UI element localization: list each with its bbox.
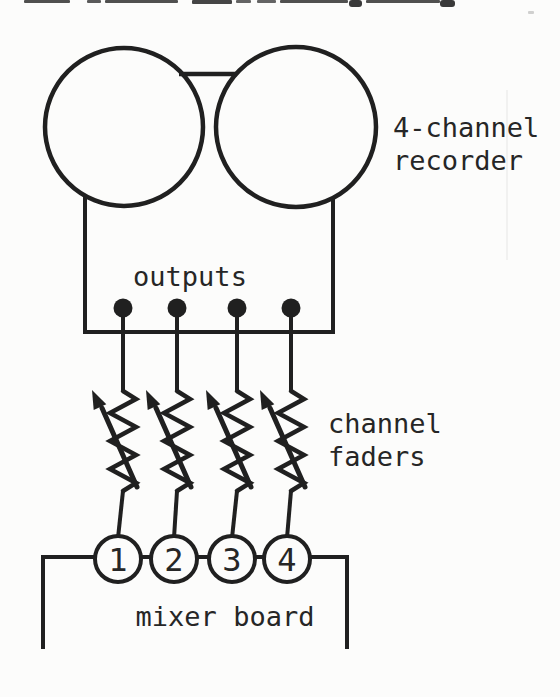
mixer-outline-right [310,557,347,649]
faders-label: channel faders [328,408,442,472]
outputs-label: outputs [133,261,247,292]
fader-3-lead [232,491,237,538]
channel-number-4: 4 [277,541,296,579]
channel-number-2: 2 [164,541,183,579]
recorder-unit: outputs [45,47,376,332]
fader-1-lead [118,491,123,538]
recorder-label-line1: 4-channel [393,112,539,143]
fader-2-lead [174,491,177,538]
signal-flow-diagram: outputs 4-channel recorder [0,0,560,697]
fader-3 [206,390,251,538]
scan-speck [528,11,534,14]
mixer-outline-left [43,557,95,649]
output-wires [123,308,291,391]
faders-label-line2: faders [328,441,426,472]
mixer-board-label: mixer board [136,601,315,632]
fader-2 [146,390,191,538]
channel-number-1: 1 [108,541,127,579]
recorder-label-line2: recorder [393,145,523,176]
fader-4 [260,390,305,538]
scanned-figure-page: outputs 4-channel recorder [0,0,560,697]
mixer-board: 1 2 3 4 mixer board [43,536,347,649]
fader-1 [92,390,137,538]
tape-reel-left [45,48,203,206]
fader-4-lead [287,491,291,538]
tape-reel-right [216,47,376,207]
channel-number-3: 3 [222,541,241,579]
recorder-label: 4-channel recorder [393,112,539,176]
faders-label-line1: channel [328,408,442,439]
